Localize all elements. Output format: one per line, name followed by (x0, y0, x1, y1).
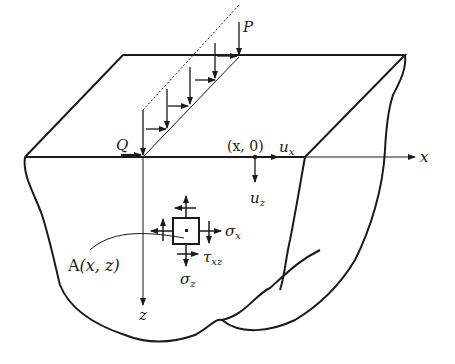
labels: P Q (x, 0) ux uz x z A(x, z) σx σz τxz (67, 18, 429, 324)
label-tau-xz: τxz (203, 248, 223, 267)
label-surface-point: (x, 0) (227, 138, 264, 154)
label-ux: ux (279, 138, 295, 157)
label-P: P (242, 18, 254, 36)
label-sigma-x: σx (225, 222, 241, 241)
label-x-axis: x (420, 148, 429, 166)
surface-point (253, 155, 278, 182)
elastic-half-space-diagram: P Q (x, 0) ux uz x z A(x, z) σx σz τxz (0, 0, 455, 364)
label-uz: uz (250, 189, 266, 208)
label-Q: Q (116, 136, 128, 154)
label-z-axis: z (138, 306, 147, 324)
load-line (143, 5, 239, 157)
label-sigma-z: σz (180, 270, 196, 289)
label-point-A: A(x, z) (67, 256, 120, 275)
vertical-load-arrows (143, 22, 239, 155)
